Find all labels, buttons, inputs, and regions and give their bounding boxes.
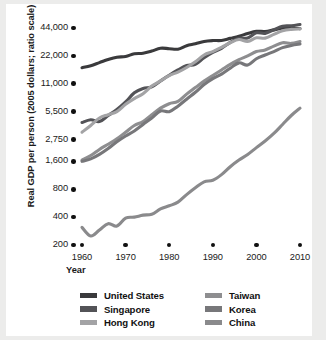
series-line [82, 44, 300, 161]
legend-column-right: TaiwanKoreaChina [205, 289, 260, 329]
legend-item-label: Singapore [104, 304, 150, 315]
legend-swatch-icon [205, 293, 222, 299]
legend-swatch-icon [80, 293, 97, 299]
legend-swatch-icon [80, 306, 97, 312]
legend-swatch-icon [80, 320, 97, 326]
series-line [82, 25, 300, 123]
figure-container: Real GDP per person (2005 dollars; ratio… [0, 0, 326, 340]
x-axis-title: Year [66, 265, 86, 275]
legend-item-label: Korea [229, 304, 256, 315]
legend-column-left: United StatesSingaporeHong Kong [80, 289, 164, 329]
legend-item[interactable]: United States [80, 289, 164, 302]
legend-item[interactable]: Singapore [80, 302, 164, 315]
legend-item-label: China [229, 317, 255, 328]
legend-item[interactable]: Hong Kong [80, 316, 164, 329]
legend-item[interactable]: China [205, 316, 260, 329]
legend-item[interactable]: Taiwan [205, 289, 260, 302]
legend-item[interactable]: Korea [205, 302, 260, 315]
series-line [82, 108, 300, 236]
legend-item-label: United States [104, 290, 164, 301]
legend-item-label: Taiwan [229, 290, 260, 301]
legend-swatch-icon [205, 306, 222, 312]
chart-legend: United StatesSingaporeHong Kong TaiwanKo… [80, 289, 310, 335]
legend-item-label: Hong Kong [104, 317, 155, 328]
legend-swatch-icon [205, 320, 222, 326]
